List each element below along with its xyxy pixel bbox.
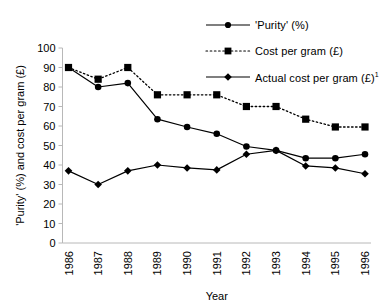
data-point	[184, 91, 191, 98]
data-point	[332, 164, 340, 172]
y-tick-label: 70	[43, 101, 55, 113]
data-point	[361, 170, 369, 178]
y-tick-label: 60	[43, 120, 55, 132]
x-tick-label: 1992	[240, 251, 252, 275]
data-point	[124, 167, 132, 175]
legend-label-actual-cost-text: Actual cost per gram (£)	[255, 71, 375, 83]
data-point	[302, 116, 309, 123]
chart-container: 0102030405060708090100198619871988198919…	[0, 0, 383, 306]
data-point	[154, 91, 161, 98]
data-point	[125, 80, 132, 87]
data-point	[243, 150, 251, 158]
x-tick-label: 1996	[359, 251, 371, 275]
x-tick-label: 1989	[151, 251, 163, 275]
chart-legend: 'Purity' (%) Cost per gram (£) Actual co…	[204, 12, 383, 90]
legend-swatch-purity-line-circle	[204, 18, 252, 32]
y-tick-label: 90	[43, 62, 55, 74]
data-point	[332, 155, 339, 162]
data-point	[95, 84, 102, 91]
data-point	[65, 167, 73, 175]
data-point	[243, 103, 250, 110]
x-tick-label: 1991	[211, 251, 223, 275]
data-point	[154, 161, 162, 169]
y-tick-label: 50	[43, 140, 55, 152]
data-point	[124, 64, 131, 71]
x-tick-label: 1990	[181, 251, 193, 275]
data-point	[94, 181, 102, 189]
data-point	[361, 123, 368, 130]
data-point	[184, 124, 191, 131]
data-point	[213, 131, 220, 138]
y-tick-label: 100	[37, 42, 55, 54]
data-point	[95, 76, 102, 83]
legend-label-actual-cost-per-gram: Actual cost per gram (£)1	[255, 71, 379, 84]
legend-item-purity: 'Purity' (%)	[204, 12, 383, 38]
y-tick-label: 10	[43, 218, 55, 230]
data-point	[213, 166, 221, 174]
y-tick-label: 80	[43, 81, 55, 93]
x-tick-label: 1986	[63, 251, 75, 275]
y-tick-label: 40	[43, 159, 55, 171]
y-tick-label: 30	[43, 179, 55, 191]
data-point	[332, 123, 339, 130]
x-axis-title: Year	[206, 290, 229, 302]
legend-label-cost-per-gram: Cost per gram (£)	[255, 45, 343, 57]
data-point	[183, 164, 191, 172]
data-point	[243, 143, 250, 150]
legend-footnote-marker: 1	[375, 71, 379, 78]
data-point	[154, 116, 161, 123]
data-point	[65, 64, 72, 71]
data-point	[362, 151, 369, 158]
legend-label-purity: 'Purity' (%)	[255, 19, 309, 31]
series-3	[65, 147, 369, 189]
legend-item-actual-cost-per-gram: Actual cost per gram (£)1	[204, 64, 383, 90]
x-tick-label: 1995	[329, 251, 341, 275]
x-tick-label: 1987	[92, 251, 104, 275]
x-tick-label: 1993	[270, 251, 282, 275]
data-point	[302, 155, 309, 162]
x-tick-label: 1988	[122, 251, 134, 275]
data-point	[272, 103, 279, 110]
y-tick-label: 20	[43, 198, 55, 210]
data-point	[302, 162, 310, 170]
y-tick-label: 0	[49, 237, 55, 249]
x-tick-label: 1994	[300, 251, 312, 275]
legend-item-cost-per-gram: Cost per gram (£)	[204, 38, 383, 64]
y-axis-title: 'Purity' (%) and cost per gram (£)	[14, 65, 26, 226]
legend-swatch-actual-line-diamond	[204, 70, 252, 84]
data-point	[272, 147, 280, 155]
data-point	[213, 91, 220, 98]
legend-swatch-cost-dotted-square	[204, 44, 252, 58]
